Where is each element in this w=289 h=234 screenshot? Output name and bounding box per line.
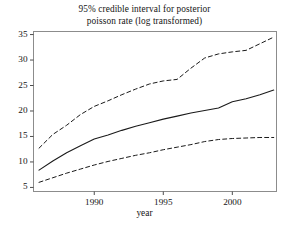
y-tick-label: 35 [0,29,28,39]
y-tick-label: 15 [0,130,28,140]
x-tick-label: 1990 [64,197,124,207]
x-axis-ticks [94,192,232,196]
series-line-1 [39,90,274,170]
chart-series-group [39,37,274,182]
y-tick-label: 25 [0,80,28,90]
x-axis-title: year [0,208,289,218]
plot-frame [34,32,277,192]
y-tick-label: 30 [0,54,28,64]
plot-frame-rect [34,32,277,192]
y-tick-label: 20 [0,105,28,115]
y-axis-ticks [30,35,34,188]
series-line-0 [39,37,274,148]
x-tick-label: 1995 [133,197,193,207]
y-tick-label: 10 [0,156,28,166]
series-line-2 [39,137,274,182]
x-tick-label: 2000 [202,197,262,207]
y-tick-label: 5 [0,181,28,191]
chart-figure: 95% credible interval for posterior pois… [0,0,289,234]
